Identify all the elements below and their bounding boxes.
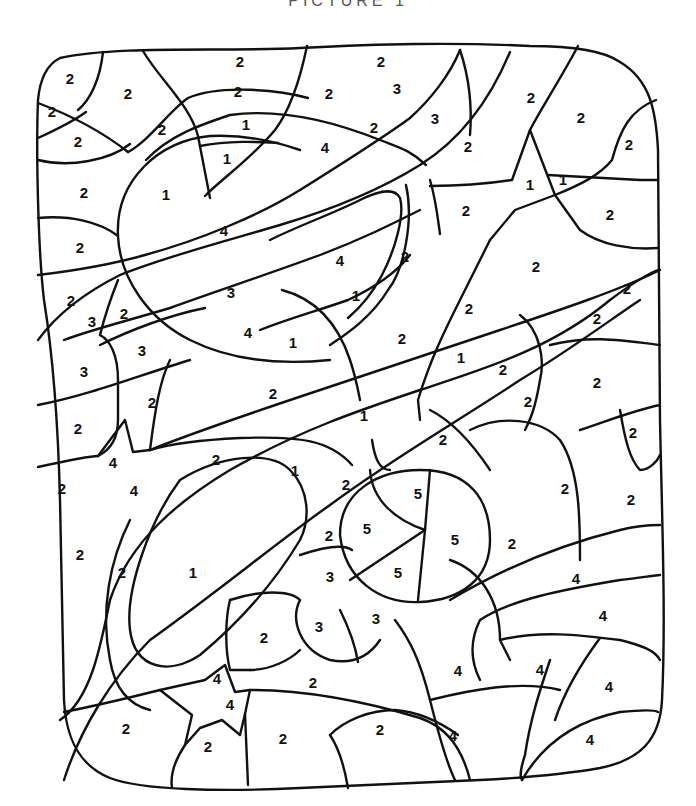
region-number: 1 [289,334,297,351]
region-number: 1 [242,116,250,133]
region-number: 4 [599,607,608,624]
region-number: 2 [593,374,601,391]
region-number: 2 [606,206,614,223]
region-number: 3 [315,618,323,635]
region-number: 2 [623,280,631,297]
region-number: 2 [124,85,132,102]
region-number: 2 [370,119,378,136]
region-numbers: 2222222112142223234222211222242132324133… [0,0,696,806]
region-number: 4 [213,670,222,687]
region-number: 2 [204,738,212,755]
region-number: 2 [122,720,130,737]
region-number: 5 [363,520,371,537]
region-number: 2 [577,109,585,126]
region-number: 3 [80,363,88,380]
region-number: 2 [118,564,126,581]
region-number: 4 [586,731,595,748]
region-number: 5 [394,564,402,581]
region-number: 2 [260,629,268,646]
region-number: 3 [227,284,235,301]
region-number: 2 [325,527,333,544]
region-number: 3 [138,342,146,359]
region-number: 3 [88,313,96,330]
region-number: 2 [376,721,384,738]
region-number: 4 [536,661,545,678]
region-number: 2 [80,184,88,201]
region-number: 2 [508,535,516,552]
region-number: 4 [336,252,345,269]
region-number: 2 [120,305,128,322]
region-number: 1 [162,186,170,203]
region-number: 2 [325,85,333,102]
region-number: 1 [360,407,368,424]
region-number: 2 [58,480,66,497]
region-number: 2 [342,476,350,493]
region-number: 2 [236,53,244,70]
region-number: 4 [130,482,139,499]
region-number: 5 [451,531,459,548]
region-number: 1 [223,150,231,167]
region-number: 3 [372,610,380,627]
region-number: 4 [220,222,229,239]
region-number: 2 [377,53,385,70]
region-number: 2 [309,674,317,691]
region-number: 4 [572,570,581,587]
region-number: 1 [291,462,299,479]
region-number: 2 [74,133,82,150]
region-number: 4 [109,454,118,471]
region-number: 1 [559,171,567,188]
region-number: 2 [74,420,82,437]
region-number: 2 [527,89,535,106]
region-number: 2 [629,424,637,441]
region-number: 2 [148,394,156,411]
region-number: 2 [67,292,75,309]
region-number: 2 [627,491,635,508]
region-number: 2 [158,121,166,138]
region-number: 2 [465,300,473,317]
region-number: 2 [464,138,472,155]
region-number: 2 [398,330,406,347]
region-number: 2 [212,451,220,468]
region-number: 2 [561,480,569,497]
region-number: 3 [393,80,401,97]
region-number: 4 [449,727,458,744]
region-number: 2 [524,393,532,410]
region-number: 4 [244,324,253,341]
region-number: 2 [439,431,447,448]
region-number: 1 [189,564,197,581]
region-number: 2 [279,730,287,747]
region-number: 2 [625,136,633,153]
region-number: 2 [499,361,507,378]
region-number: 2 [76,546,84,563]
region-number: 2 [66,70,74,87]
region-number: 3 [326,568,334,585]
region-number: 2 [76,239,84,256]
region-number: 4 [226,696,235,713]
region-number: 3 [431,110,439,127]
region-number: 2 [48,103,56,120]
region-number: 2 [593,310,601,327]
region-number: 2 [532,258,540,275]
region-number: 4 [454,662,463,679]
region-number: 4 [605,678,614,695]
region-number: 5 [414,485,422,502]
region-number: 4 [321,139,330,156]
region-number: 1 [457,349,465,366]
region-number: 2 [234,83,242,100]
region-number: 2 [462,202,470,219]
region-number: 2 [401,248,409,265]
region-number: 1 [526,176,534,193]
region-number: 2 [269,385,277,402]
region-number: 1 [352,287,360,304]
